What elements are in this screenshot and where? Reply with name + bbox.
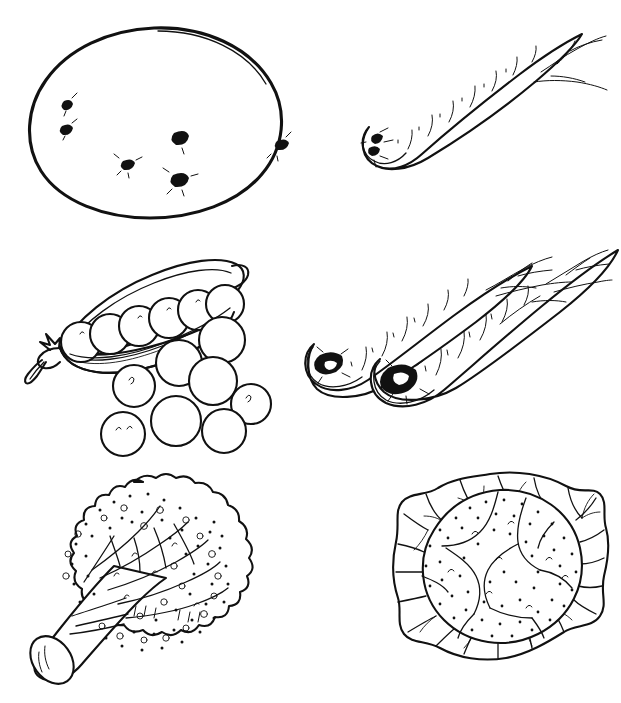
potato-illustration <box>22 22 290 222</box>
pea-pod-illustration <box>24 250 292 430</box>
parsnips-illustration <box>296 244 612 430</box>
potato-icon <box>22 22 290 222</box>
cauliflower-illustration <box>386 468 614 678</box>
cauliflower-icon <box>386 468 614 678</box>
carrot-illustration <box>336 24 612 194</box>
carrot-crown-detail <box>361 128 406 167</box>
parsnip-icon <box>296 244 612 430</box>
carrot-icon <box>336 24 612 194</box>
parsnip-front <box>371 250 618 406</box>
broccoli-icon <box>14 466 276 690</box>
pea-pod-stem <box>25 334 60 384</box>
drawing-canvas <box>0 0 621 703</box>
pea-pod-icon <box>24 250 292 430</box>
broccoli-illustration <box>14 466 276 690</box>
